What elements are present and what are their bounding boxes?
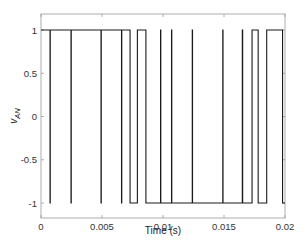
y-tick-label: 0 [32,111,37,122]
y-label-sub: AN [13,108,22,120]
axes-box [41,14,285,218]
y-tick-label: 0.5 [24,68,37,79]
x-tick-label: 0.02 [276,221,295,232]
svg-text:vAN: vAN [8,108,22,124]
x-tick-label: 0.015 [212,221,236,232]
y-tick-label: 1 [32,25,37,36]
x-tick-label: 0 [38,221,43,232]
y-axis-label: vAN [8,108,22,124]
chart: 00.0050.010.0150.02 10.50-0.5-1 Time (s)… [0,0,308,244]
x-tick-label: 0.005 [90,221,114,232]
x-axis-label: Time (s) [145,225,181,236]
y-tick-label: -0.5 [21,154,37,165]
y-tick-label: -1 [29,198,37,209]
